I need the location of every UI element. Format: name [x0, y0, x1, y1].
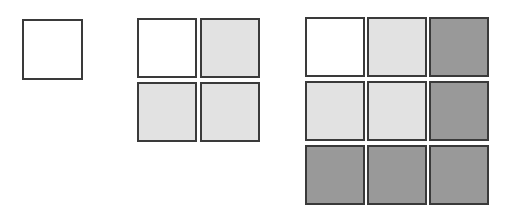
diagram-canvas: [0, 0, 507, 215]
square-cell-3x3-r3c1: [305, 145, 365, 205]
square-cell-3x3-r1c1: [305, 17, 365, 77]
square-cell-3x3-r2c2: [367, 81, 427, 141]
square-group-3x3: [305, 17, 489, 205]
square-cell-3x3-r3c2: [367, 145, 427, 205]
square-group-1x1: [22, 19, 83, 80]
square-cell-1x1-r1c1: [22, 19, 83, 80]
square-cell-3x3-r2c1: [305, 81, 365, 141]
square-cell-2x2-r2c1: [137, 82, 197, 142]
square-cell-3x3-r1c2: [367, 17, 427, 77]
square-cell-3x3-r2c3: [429, 81, 489, 141]
square-cell-2x2-r2c2: [200, 82, 260, 142]
square-group-2x2: [137, 18, 260, 142]
square-cell-3x3-r1c3: [429, 17, 489, 77]
square-cell-2x2-r1c1: [137, 18, 197, 78]
square-cell-3x3-r3c3: [429, 145, 489, 205]
square-cell-2x2-r1c2: [200, 18, 260, 78]
